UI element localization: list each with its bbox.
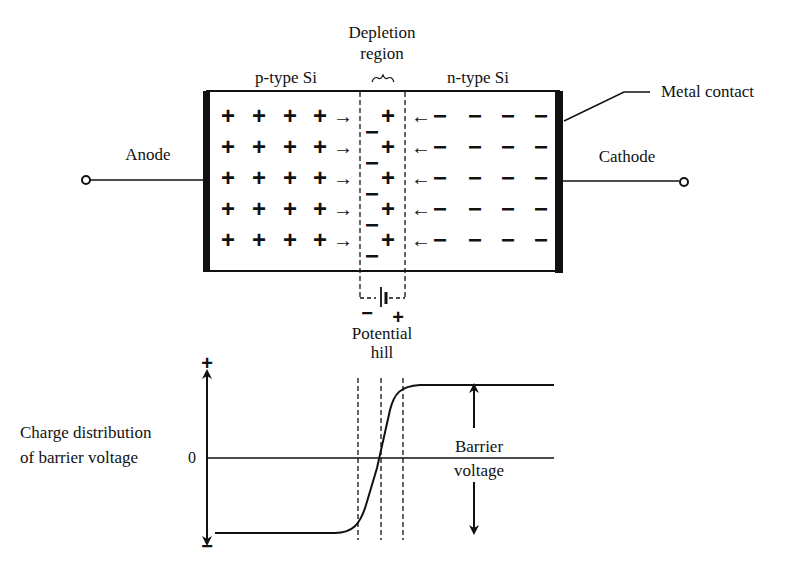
cathode-metal-contact (555, 91, 563, 273)
depletion-positive-ion: + (381, 164, 395, 191)
drift-arrow-right: → (333, 167, 353, 189)
depletion-region-label-1: Depletion (348, 23, 416, 42)
electron-charge: − (534, 226, 548, 253)
potential-hill-label-1: Potential (352, 324, 413, 343)
electron-charge: − (501, 195, 515, 222)
hole-charge: + (313, 195, 327, 222)
hole-charge: + (283, 226, 297, 253)
barrier-voltage-label-1: Barrier (455, 437, 503, 456)
depletion-region-label-2: region (360, 44, 404, 63)
drift-arrow-right: → (333, 136, 353, 158)
drift-arrow-right: → (333, 198, 353, 220)
barrier-voltage-graph: Charge distribution of barrier voltage 0… (20, 352, 554, 557)
electron-charge: − (468, 102, 482, 129)
anode-label: Anode (125, 145, 170, 164)
barrier-voltage-label-2: voltage (454, 461, 504, 480)
graph-ylabel-2: of barrier voltage (20, 448, 138, 467)
hole-charge: + (252, 133, 266, 160)
drift-arrow-right: → (333, 229, 353, 251)
hole-charge: + (252, 102, 266, 129)
depletion-positive-ion: + (381, 102, 395, 129)
electron-charge: − (433, 133, 447, 160)
metal-contact-leader (564, 92, 650, 121)
zero-label: 0 (188, 449, 196, 466)
depletion-positive-ion: + (381, 226, 395, 253)
hole-charge: + (283, 164, 297, 191)
depletion-positive-ion: + (381, 133, 395, 160)
hole-charge: + (313, 133, 327, 160)
electron-charge: − (433, 102, 447, 129)
drift-arrow-left: ← (411, 136, 431, 158)
electron-charge: − (501, 133, 515, 160)
hole-charge: + (221, 102, 235, 129)
hole-charge: + (252, 226, 266, 253)
electron-charge: − (534, 164, 548, 191)
depletion-negative-ion: − (365, 242, 379, 269)
electron-charge: − (468, 133, 482, 160)
potential-curve (215, 385, 554, 533)
drift-arrow-left: ← (411, 229, 431, 251)
pn-junction-diagram: Depletion region p-type Si n-type Si +++… (0, 0, 797, 565)
depletion-negative-ion: − (365, 180, 379, 207)
depletion-negative-ion: − (365, 149, 379, 176)
electron-charge: − (501, 102, 515, 129)
hole-charge: + (252, 164, 266, 191)
charge-rows: ++++→+−←−−−−++++→+−←−−−−++++→+−←−−−−++++… (221, 102, 548, 269)
hole-charge: + (313, 102, 327, 129)
hole-charge: + (221, 195, 235, 222)
axis-minus-sign: − (201, 535, 213, 557)
electron-charge: − (433, 226, 447, 253)
axis-plus-sign: + (201, 352, 213, 374)
electron-charge: − (534, 102, 548, 129)
graph-ylabel-1: Charge distribution (20, 423, 152, 442)
anode-terminal (82, 176, 90, 184)
hole-charge: + (221, 164, 235, 191)
electron-charge: − (468, 226, 482, 253)
hole-charge: + (283, 133, 297, 160)
n-type-label: n-type Si (447, 68, 509, 87)
electron-charge: − (433, 195, 447, 222)
hole-charge: + (283, 195, 297, 222)
depletion-negative-ion: − (365, 211, 379, 238)
potential-hill-label-2: hill (371, 343, 394, 362)
hole-charge: + (313, 164, 327, 191)
drift-arrow-left: ← (411, 198, 431, 220)
diode-structure: Depletion region p-type Si n-type Si +++… (82, 23, 754, 362)
drift-arrow-right: → (333, 105, 353, 127)
hole-charge: + (221, 226, 235, 253)
drift-arrow-left: ← (411, 167, 431, 189)
depletion-positive-ion: + (381, 195, 395, 222)
electron-charge: − (433, 164, 447, 191)
drift-arrow-left: ← (411, 105, 431, 127)
p-type-label: p-type Si (255, 68, 317, 87)
hole-charge: + (283, 102, 297, 129)
cathode-terminal (680, 178, 688, 186)
battery-minus-sign: − (361, 302, 373, 324)
electron-charge: − (468, 195, 482, 222)
electron-charge: − (501, 226, 515, 253)
electron-charge: − (468, 164, 482, 191)
depletion-negative-ion: − (365, 118, 379, 145)
anode-metal-contact (203, 91, 210, 272)
electron-charge: − (534, 195, 548, 222)
electron-charge: − (501, 164, 515, 191)
hole-charge: + (252, 195, 266, 222)
hole-charge: + (313, 226, 327, 253)
electron-charge: − (534, 133, 548, 160)
cathode-label: Cathode (599, 147, 656, 166)
hole-charge: + (221, 133, 235, 160)
metal-contact-label: Metal contact (661, 82, 754, 101)
depletion-brace (372, 75, 394, 82)
